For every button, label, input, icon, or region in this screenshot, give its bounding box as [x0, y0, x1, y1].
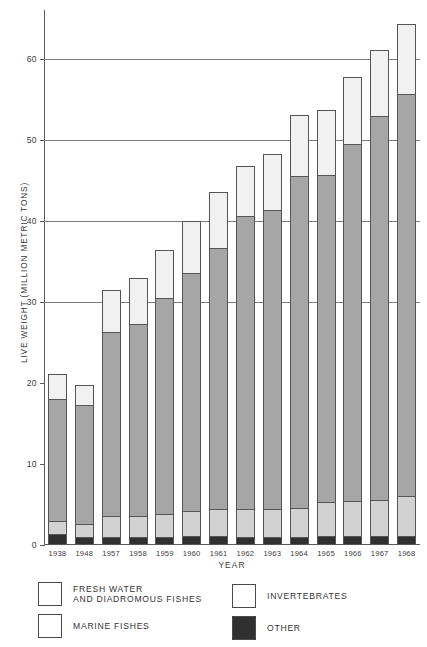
bar-1938[interactable] — [48, 374, 67, 545]
legend-swatch-icon — [232, 616, 256, 640]
bar-series-group — [44, 10, 420, 545]
bar-1958[interactable] — [129, 278, 148, 545]
legend-label-line: FRESH WATER — [73, 584, 202, 594]
bar-segment — [102, 516, 121, 537]
bar-segment — [263, 509, 282, 537]
x-tick-label: 1948 — [71, 549, 98, 558]
bar-segment — [48, 534, 67, 545]
bar-segment — [209, 509, 228, 536]
bar-1964[interactable] — [290, 115, 309, 545]
bar-segment — [317, 175, 336, 502]
bar-segment — [317, 502, 336, 536]
bar-1961[interactable] — [209, 192, 228, 545]
bar-segment — [263, 210, 282, 508]
bar-1968[interactable] — [397, 24, 416, 545]
x-tick-label: 1961 — [205, 549, 232, 558]
legend-label: MARINE FISHES — [73, 621, 150, 631]
bar-1959[interactable] — [155, 250, 174, 545]
bar-segment — [290, 537, 309, 545]
bar-1967[interactable] — [370, 50, 389, 545]
bar-segment — [75, 385, 94, 404]
bar-segment — [397, 536, 416, 545]
x-tick-label: 1958 — [125, 549, 152, 558]
legend-swatch-icon — [38, 582, 62, 606]
bar-segment — [397, 94, 416, 497]
bar-1966[interactable] — [343, 77, 362, 545]
bar-segment — [182, 536, 201, 545]
bar-segment — [48, 521, 67, 535]
bar-segment — [102, 537, 121, 545]
x-tick-label: 1967 — [366, 549, 393, 558]
x-tick-label: 1963 — [259, 549, 286, 558]
bar-segment — [209, 536, 228, 545]
bar-segment — [75, 405, 94, 524]
bar-segment — [317, 110, 336, 175]
bar-segment — [48, 399, 67, 521]
chart-figure: LIVE WEIGHT (MILLION METRIC TONS) 010203… — [0, 0, 427, 647]
bar-1960[interactable] — [182, 221, 201, 545]
legend-swatch-icon — [232, 584, 256, 608]
legend-label: INVERTEBRATES — [267, 591, 348, 601]
y-tick-label: 10 — [27, 459, 37, 469]
x-tick-label: 1962 — [232, 549, 259, 558]
y-tick-label: 60 — [27, 54, 37, 64]
bar-segment — [155, 250, 174, 298]
bar-segment — [182, 511, 201, 536]
y-tick-label: 50 — [27, 135, 37, 145]
bar-segment — [102, 290, 121, 332]
bar-segment — [290, 176, 309, 508]
bar-segment — [155, 537, 174, 545]
bar-segment — [290, 115, 309, 177]
bar-segment — [343, 77, 362, 143]
figure-caption — [6, 640, 427, 647]
x-tick-label: 1966 — [339, 549, 366, 558]
bar-segment — [209, 192, 228, 247]
bar-segment — [182, 273, 201, 511]
bar-1965[interactable] — [317, 110, 336, 545]
x-tick-label: 1968 — [393, 549, 420, 558]
bar-1948[interactable] — [75, 385, 94, 545]
plot-area: 0102030405060 19381948195719581959196019… — [44, 10, 420, 545]
bar-segment — [370, 50, 389, 116]
bar-segment — [370, 500, 389, 536]
bar-segment — [236, 166, 255, 215]
bar-segment — [397, 496, 416, 536]
legend-item[interactable]: MARINE FISHES — [38, 614, 150, 638]
bar-segment — [182, 221, 201, 273]
legend-item[interactable]: FRESH WATERAND DIADROMOUS FISHES — [38, 582, 202, 606]
bar-segment — [263, 154, 282, 211]
x-tick-label: 1938 — [44, 549, 71, 558]
y-tick-label: 40 — [27, 216, 37, 226]
bar-1963[interactable] — [263, 153, 282, 545]
bar-segment — [236, 216, 255, 509]
bar-segment — [102, 332, 121, 516]
bar-segment — [209, 248, 228, 510]
legend-label-line: OTHER — [267, 623, 301, 633]
bar-segment — [75, 524, 94, 537]
bar-segment — [397, 24, 416, 94]
bar-segment — [370, 536, 389, 545]
legend-label-line: INVERTEBRATES — [267, 591, 348, 601]
bar-1962[interactable] — [236, 166, 255, 545]
bar-segment — [129, 516, 148, 537]
x-tick-label: 1965 — [313, 549, 340, 558]
legend-label: FRESH WATERAND DIADROMOUS FISHES — [73, 584, 202, 605]
y-tick-mark — [40, 545, 45, 546]
legend-item[interactable]: OTHER — [232, 616, 301, 640]
bar-segment — [155, 514, 174, 537]
bar-segment — [236, 537, 255, 545]
bar-segment — [263, 537, 282, 545]
legend-item[interactable]: INVERTEBRATES — [232, 584, 348, 608]
bar-segment — [129, 537, 148, 545]
y-tick-label: 20 — [27, 378, 37, 388]
chart-legend: FRESH WATERAND DIADROMOUS FISHESINVERTEB… — [0, 582, 427, 630]
bar-segment — [343, 144, 362, 501]
bar-segment — [290, 508, 309, 537]
bar-segment — [129, 324, 148, 516]
bar-segment — [236, 509, 255, 537]
bar-segment — [343, 536, 362, 545]
legend-label-line: MARINE FISHES — [73, 621, 150, 631]
bar-1957[interactable] — [102, 290, 121, 545]
y-tick-label: 0 — [32, 540, 37, 550]
bar-segment — [317, 536, 336, 545]
